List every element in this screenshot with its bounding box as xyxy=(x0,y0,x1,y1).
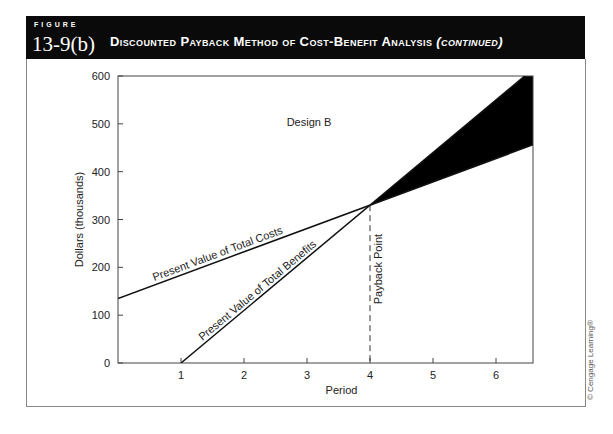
y-tick-label: 300 xyxy=(92,214,110,226)
x-tick-label: 1 xyxy=(178,369,184,381)
y-tick-label: 500 xyxy=(92,118,110,130)
costs-line-label: Present Value of Total Costs xyxy=(151,224,285,283)
chart: 0100200300400500600123456PeriodDollars (… xyxy=(0,0,613,434)
benefits-line xyxy=(181,69,533,363)
copyright-credit: © Cengage Learning® xyxy=(586,320,595,400)
y-tick-label: 100 xyxy=(92,309,110,321)
x-axis-label: Period xyxy=(326,384,358,396)
y-tick-label: 200 xyxy=(92,261,110,273)
x-tick-label: 5 xyxy=(430,369,436,381)
costs-line xyxy=(118,145,533,299)
y-tick-label: 0 xyxy=(104,357,110,369)
y-tick-label: 600 xyxy=(92,70,110,82)
x-tick-label: 4 xyxy=(367,369,373,381)
y-tick-label: 400 xyxy=(92,166,110,178)
chart-title: Design B xyxy=(287,116,332,128)
plot-area: 0100200300400500600123456PeriodDollars (… xyxy=(73,69,533,396)
x-tick-label: 6 xyxy=(493,369,499,381)
y-axis-label: Dollars (thousands) xyxy=(73,172,85,267)
x-tick-label: 3 xyxy=(304,369,310,381)
payback-point-label: Payback Point xyxy=(372,234,384,304)
x-tick-label: 2 xyxy=(241,369,247,381)
